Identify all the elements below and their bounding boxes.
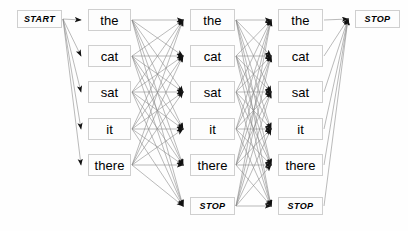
node-c2-it[interactable]: it <box>190 118 235 140</box>
node-c2-cat[interactable]: cat <box>190 45 235 67</box>
node-c3-it[interactable]: it <box>278 118 323 140</box>
node-c1-it[interactable]: it <box>88 118 131 140</box>
node-n-start[interactable]: START <box>17 10 62 28</box>
node-c3-cat[interactable]: cat <box>278 45 323 67</box>
node-c3-the[interactable]: the <box>278 9 323 31</box>
node-layer: STARTthecatsatittherethecatsatitthereSTO… <box>0 0 408 231</box>
node-c2-the[interactable]: the <box>190 9 235 31</box>
node-c1-cat[interactable]: cat <box>88 45 131 67</box>
node-c2-stop[interactable]: STOP <box>190 197 235 215</box>
node-c1-there[interactable]: there <box>88 154 131 176</box>
node-c3-stop[interactable]: STOP <box>278 197 323 215</box>
node-c3-sat[interactable]: sat <box>278 81 323 103</box>
node-c1-sat[interactable]: sat <box>88 81 131 103</box>
node-c1-the[interactable]: the <box>88 9 131 31</box>
node-c2-sat[interactable]: sat <box>190 81 235 103</box>
node-c3-there[interactable]: there <box>278 154 323 176</box>
node-n-stop[interactable]: STOP <box>355 10 400 28</box>
node-c2-there[interactable]: there <box>190 154 235 176</box>
diagram-canvas: STARTthecatsatittherethecatsatitthereSTO… <box>0 0 408 231</box>
